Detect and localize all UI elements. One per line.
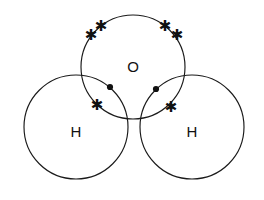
lone-pair-upper-right-b-cross-icon: ✱ xyxy=(171,26,184,44)
lone-pair-upper-right-a-cross-icon: ✱ xyxy=(159,17,172,35)
bond-cross-right-icon: ✱ xyxy=(165,98,178,116)
bond-dot-right-icon xyxy=(153,86,159,92)
bond-dot-left-icon xyxy=(107,84,113,90)
water-molecule-svg: Water molecule Lewis dot-and-cross diagr… xyxy=(0,0,264,200)
oxygen-atom-label: O xyxy=(127,58,139,75)
lewis-structure-diagram: Water molecule Lewis dot-and-cross diagr… xyxy=(0,0,264,200)
lone-pair-upper-left-b-cross-icon: ✱ xyxy=(95,17,108,35)
bond-cross-left-icon: ✱ xyxy=(91,96,104,114)
hydrogen-left-atom-label: H xyxy=(71,123,82,140)
hydrogen-right-atom-label: H xyxy=(187,123,198,140)
